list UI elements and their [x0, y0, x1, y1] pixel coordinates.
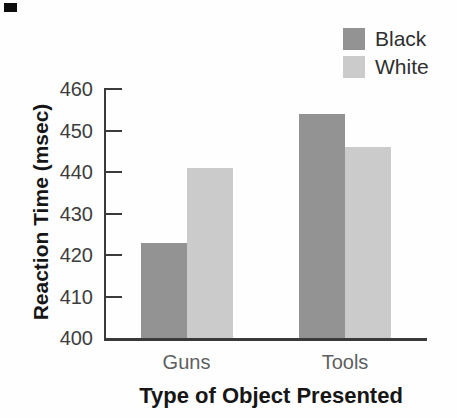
- y-tick-label-400: 400: [34, 327, 93, 349]
- chart-legend: BlackWhite: [343, 28, 429, 78]
- legend-item-white: White: [343, 56, 429, 78]
- y-tick-430: [106, 213, 122, 215]
- legend-label-white: White: [375, 56, 429, 78]
- y-tick-label-410: 410: [34, 286, 93, 308]
- legend-label-black: Black: [375, 28, 426, 50]
- bar-guns-black: [141, 243, 187, 338]
- y-tick-420: [106, 254, 122, 256]
- y-tick-410: [106, 296, 122, 298]
- x-category-guns: Guns: [163, 351, 211, 373]
- y-tick-440: [106, 171, 122, 173]
- legend-swatch-black: [343, 28, 365, 50]
- bar-guns-white: [187, 168, 233, 338]
- bar-tools-white: [345, 147, 391, 338]
- legend-item-black: Black: [343, 28, 429, 50]
- legend-swatch-white: [343, 56, 365, 78]
- bar-chart-figure: Reaction Time (msec) 4004104204304404504…: [0, 0, 457, 418]
- y-axis-line: [104, 88, 106, 341]
- bar-tools-black: [299, 114, 345, 338]
- y-tick-460: [106, 88, 122, 90]
- x-axis-title: Type of Object Presented: [139, 383, 403, 409]
- y-tick-label-460: 460: [34, 78, 93, 100]
- y-tick-label-440: 440: [34, 161, 93, 183]
- y-tick-450: [106, 130, 122, 132]
- x-axis-line: [104, 338, 427, 341]
- x-category-tools: Tools: [322, 351, 369, 373]
- scan-artifact-mark: [4, 3, 17, 12]
- y-tick-label-420: 420: [34, 244, 93, 266]
- y-tick-label-430: 430: [34, 203, 93, 225]
- y-tick-label-450: 450: [34, 120, 93, 142]
